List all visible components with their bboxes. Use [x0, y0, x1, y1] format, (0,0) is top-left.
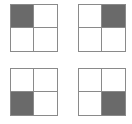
grid-top-right [78, 4, 126, 52]
empty-cell-top-right [34, 5, 57, 28]
empty-cell-top-right [102, 69, 125, 92]
empty-cell-top-left [79, 5, 102, 28]
empty-cell-bottom-left [11, 28, 34, 51]
shaded-cell-top-right [102, 5, 125, 28]
grid-bottom-right [78, 68, 126, 116]
empty-cell-bottom-right [102, 28, 125, 51]
shaded-cell-bottom-left [11, 92, 34, 115]
empty-cell-top-left [79, 69, 102, 92]
empty-cell-bottom-right [34, 92, 57, 115]
shaded-cell-bottom-right [102, 92, 125, 115]
grid-top-left [10, 4, 58, 52]
empty-cell-top-right [34, 69, 57, 92]
empty-cell-bottom-left [79, 28, 102, 51]
shaded-cell-top-left [11, 5, 34, 28]
grid-bottom-left [10, 68, 58, 116]
empty-cell-top-left [11, 69, 34, 92]
empty-cell-bottom-right [34, 28, 57, 51]
empty-cell-bottom-left [79, 92, 102, 115]
